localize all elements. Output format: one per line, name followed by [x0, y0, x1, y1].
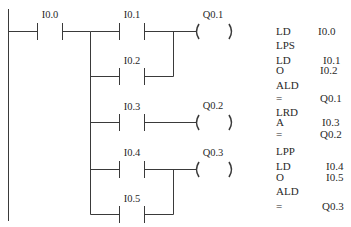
instruction-operand: Q0.2 — [320, 129, 342, 140]
instruction-operand: I0.3 — [322, 117, 339, 128]
instruction-opcode: = — [276, 129, 282, 140]
instruction-operand: Q0.1 — [320, 93, 342, 104]
instruction-opcode: O — [276, 65, 284, 76]
instruction-opcode: LPP — [276, 146, 295, 157]
instruction-opcode: LPS — [276, 40, 295, 51]
instruction-opcode: = — [276, 201, 282, 212]
instruction-opcode: = — [276, 93, 282, 104]
instruction-operand: I0.2 — [320, 65, 337, 76]
instruction-list: LDI0.0LPSLDI0.1OI0.2ALD=Q0.1LRDAI0.3=Q0.… — [0, 0, 351, 227]
instruction-opcode: ALD — [276, 80, 299, 91]
instruction-operand: I0.0 — [318, 26, 335, 37]
instruction-opcode: LD — [276, 26, 291, 37]
instruction-operand: I0.5 — [326, 172, 343, 183]
instruction-opcode: ALD — [276, 186, 299, 197]
instruction-opcode: O — [276, 172, 284, 183]
instruction-operand: Q0.3 — [322, 201, 344, 212]
instruction-opcode: A — [276, 117, 284, 128]
